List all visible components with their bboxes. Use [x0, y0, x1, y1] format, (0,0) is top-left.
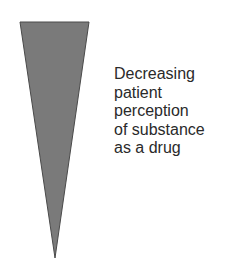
- wedge-triangle: [20, 22, 89, 258]
- label-line-4: of substance: [114, 121, 205, 140]
- label-line-1: Decreasing: [114, 65, 205, 84]
- label-line-3: perception: [114, 102, 205, 121]
- wedge-label: Decreasing patient perception of substan…: [114, 65, 205, 158]
- label-line-5: as a drug: [114, 139, 205, 158]
- label-line-2: patient: [114, 84, 205, 103]
